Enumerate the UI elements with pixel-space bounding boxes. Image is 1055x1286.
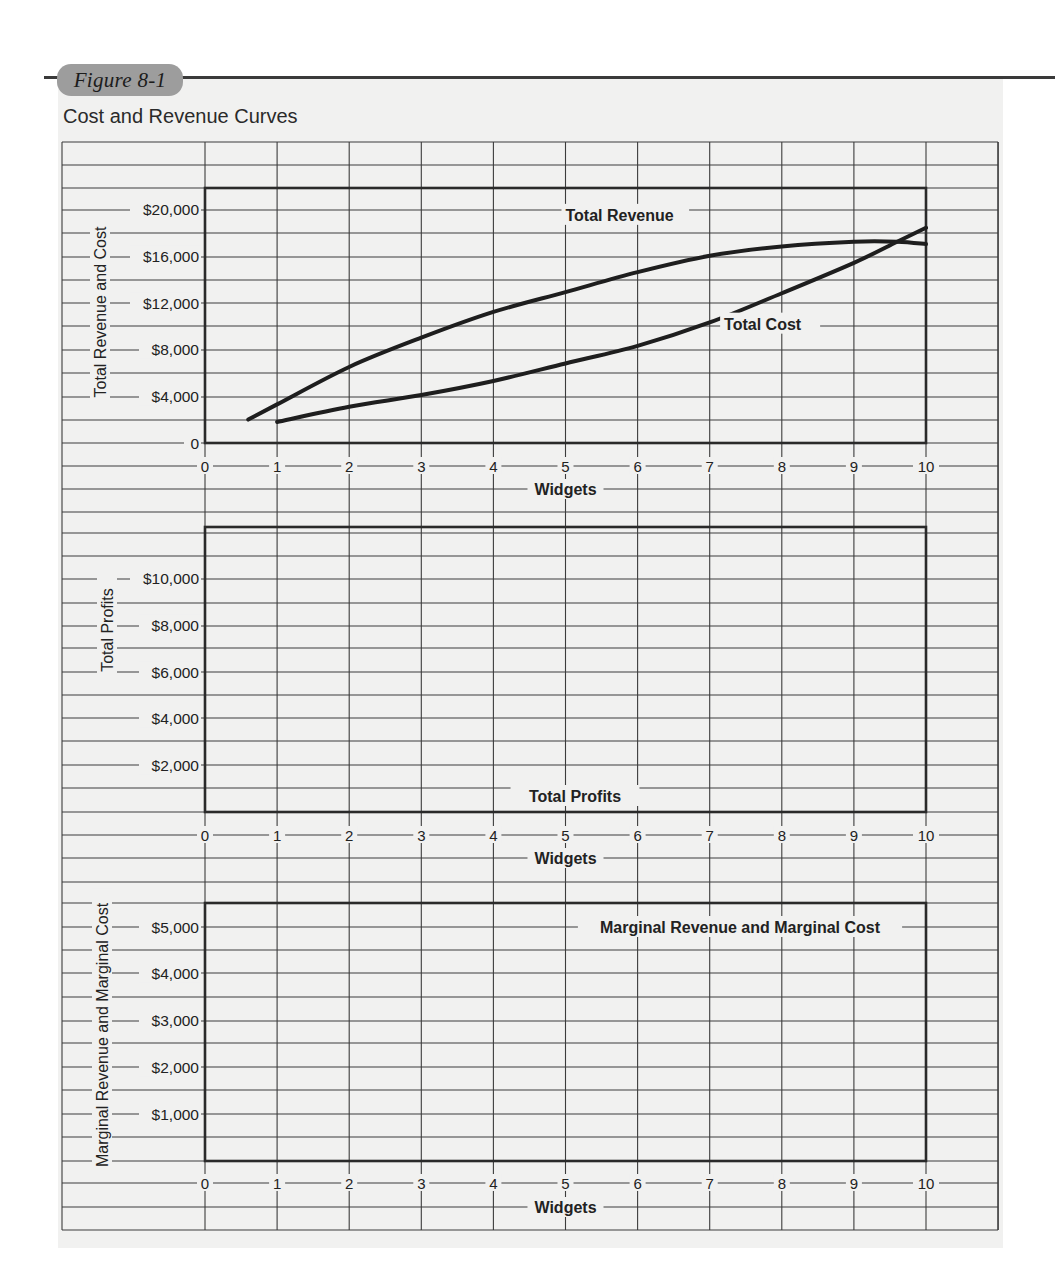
y-tick-label: $3,000 [152, 1012, 200, 1029]
y-tick-label: $8,000 [152, 617, 200, 634]
y-axis-title: Total Revenue and Cost [92, 226, 109, 397]
marginal-revenue-cost-chart: 012345678910Widgets$1,000$2,000$3,000$4,… [92, 889, 939, 1217]
x-tick-label: 8 [778, 1175, 786, 1192]
total-profits-chart: 012345678910Widgets$2,000$4,000$6,000$8,… [97, 527, 939, 868]
panel-annotation: Total Profits [529, 788, 621, 805]
chart-canvas: 012345678910Widgets0$4,000$8,000$12,000$… [0, 0, 1055, 1286]
y-tick-label: $6,000 [152, 664, 200, 681]
x-tick-label: 4 [489, 1175, 497, 1192]
y-tick-label: $4,000 [152, 388, 200, 405]
x-tick-label: 0 [201, 1175, 209, 1192]
x-tick-label: 9 [850, 1175, 858, 1192]
y-tick-label: $5,000 [152, 919, 200, 936]
y-tick-label: $2,000 [152, 757, 200, 774]
total-revenue-cost-chart: 012345678910Widgets0$4,000$8,000$12,000$… [90, 188, 939, 499]
series-curve-total-revenue [248, 241, 926, 419]
y-axis-title: Marginal Revenue and Marginal Cost [94, 902, 111, 1167]
x-axis-title: Widgets [534, 1199, 596, 1216]
x-tick-label: 10 [918, 1175, 935, 1192]
x-tick-label: 0 [201, 458, 209, 475]
x-tick-label: 9 [850, 458, 858, 475]
x-tick-label: 3 [417, 458, 425, 475]
panel-annotation: Marginal Revenue and Marginal Cost [600, 919, 881, 936]
y-tick-label: 0 [190, 435, 199, 452]
graph-paper-grid [62, 142, 998, 1230]
y-axis-title: Total Profits [99, 588, 116, 672]
x-tick-label: 7 [706, 1175, 714, 1192]
x-tick-label: 1 [273, 827, 281, 844]
x-tick-label: 2 [345, 827, 353, 844]
y-tick-label: $20,000 [143, 201, 199, 218]
y-tick-label: $12,000 [143, 295, 199, 312]
y-tick-label: $1,000 [152, 1106, 200, 1123]
x-tick-label: 1 [273, 458, 281, 475]
x-tick-label: 9 [850, 827, 858, 844]
x-tick-label: 2 [345, 458, 353, 475]
x-tick-label: 7 [706, 827, 714, 844]
x-tick-label: 3 [417, 827, 425, 844]
x-tick-label: 7 [706, 458, 714, 475]
x-tick-label: 4 [489, 458, 497, 475]
x-tick-label: 0 [201, 827, 209, 844]
x-tick-label: 6 [633, 1175, 641, 1192]
x-tick-label: 2 [345, 1175, 353, 1192]
series-label: Total Cost [724, 316, 802, 333]
y-tick-label: $10,000 [143, 570, 199, 587]
x-tick-label: 4 [489, 827, 497, 844]
series-label: Total Revenue [566, 207, 674, 224]
x-tick-label: 6 [633, 827, 641, 844]
x-tick-label: 5 [561, 1175, 569, 1192]
y-tick-label: $4,000 [152, 710, 200, 727]
x-tick-label: 5 [561, 458, 569, 475]
y-tick-label: $16,000 [143, 248, 199, 265]
x-tick-label: 3 [417, 1175, 425, 1192]
x-tick-label: 8 [778, 827, 786, 844]
x-tick-label: 10 [918, 827, 935, 844]
x-tick-label: 6 [633, 458, 641, 475]
x-axis-title: Widgets [534, 850, 596, 867]
x-tick-label: 10 [918, 458, 935, 475]
y-tick-label: $2,000 [152, 1059, 200, 1076]
x-tick-label: 8 [778, 458, 786, 475]
x-axis-title: Widgets [534, 481, 596, 498]
y-tick-label: $8,000 [152, 341, 200, 358]
y-tick-label: $4,000 [152, 965, 200, 982]
x-tick-label: 5 [561, 827, 569, 844]
x-tick-label: 1 [273, 1175, 281, 1192]
